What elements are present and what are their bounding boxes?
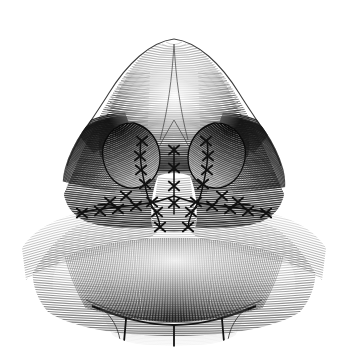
figure-root: Worm's-eye (basal) view of the nasal tip… <box>0 0 348 347</box>
nose-basal-view-illustration <box>0 0 348 347</box>
